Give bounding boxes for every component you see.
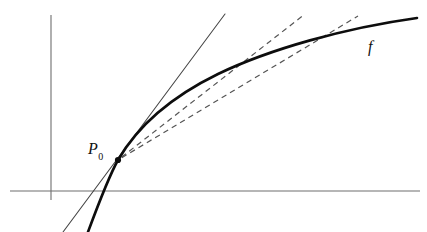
tangent-line-at-p0 <box>63 14 225 232</box>
diagram-svg <box>0 0 427 232</box>
secant-line-near <box>122 14 305 157</box>
point-p0-letter: P <box>88 140 98 157</box>
figure-canvas: P0 f <box>0 0 427 232</box>
point-p0-subscript: 0 <box>98 151 103 162</box>
point-p0-label: P0 <box>88 141 103 160</box>
function-f-label: f <box>368 39 372 55</box>
point-p0-dot <box>115 157 121 163</box>
